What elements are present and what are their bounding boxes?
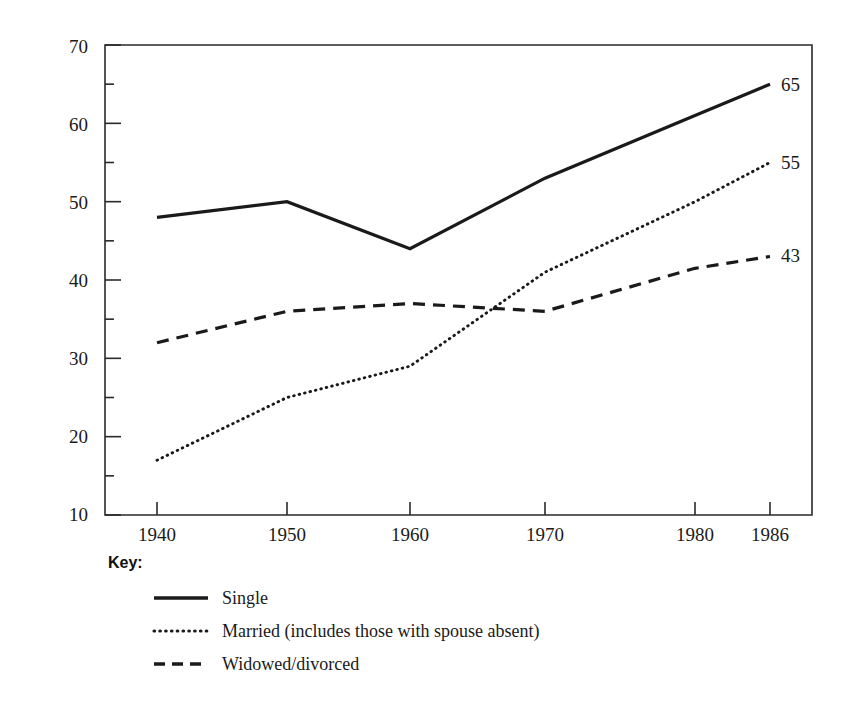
data-series-group [157,84,770,460]
x-axis-ticks [157,502,770,515]
chart-figure: Percentage of Women in Labor Force 70 60… [0,0,858,703]
legend-swatch-dashed-icon [152,657,210,671]
legend-label-widowed: Widowed/divorced [222,654,359,675]
legend-label-single: Single [222,588,268,609]
legend-swatch-dotted-icon [152,624,210,638]
legend-item-single: Single [152,583,268,613]
series-line-single [157,84,770,249]
axis-frame [105,45,812,515]
y-axis-ticks [105,45,121,515]
legend-item-widowed: Widowed/divorced [152,649,359,679]
legend-swatch-solid-icon [152,591,210,605]
plot-area [0,0,858,703]
legend-item-married: Married (includes those with spouse abse… [152,616,539,646]
legend-title: Key: [108,554,143,572]
legend-label-married: Married (includes those with spouse abse… [222,621,539,642]
